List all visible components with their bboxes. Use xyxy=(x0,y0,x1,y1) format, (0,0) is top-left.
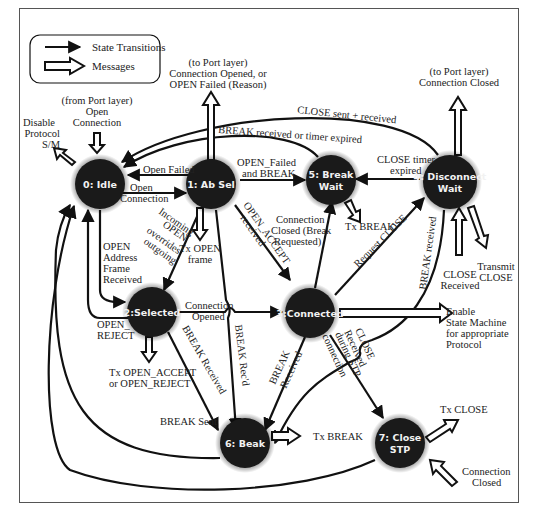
state-5-break-wait[interactable]: 5: Break Wait xyxy=(301,150,361,210)
label-connection-closed-break-3: Requested) xyxy=(274,236,322,248)
msg-tx-close-icon xyxy=(426,420,458,442)
label-enable-sm: Enable xyxy=(446,306,475,317)
label-address-frame-3: Frame xyxy=(103,263,130,274)
label-enable-sm-4: Protocol xyxy=(446,339,482,350)
msg-to-port-opened-icon xyxy=(203,92,219,160)
msg-to-port-closed-icon xyxy=(450,97,466,155)
label-close-received-4: CLOSE xyxy=(443,269,476,280)
label-to-port-opened-3: OPEN Failed (Reason) xyxy=(170,79,267,91)
legend: State Transitions Messages xyxy=(30,35,166,83)
legend-transitions-label: State Transitions xyxy=(92,41,166,53)
label-connection-closed-7: Connection xyxy=(462,466,511,477)
label-tx-break-6: Tx BREAK xyxy=(313,431,363,442)
state-machine-diagram: State Transitions Messages xyxy=(0,0,538,513)
label-to-port-closed-2: Connection Closed xyxy=(419,77,500,88)
label-address-frame: OPEN xyxy=(103,241,131,252)
label-address-frame-4: Received xyxy=(103,274,143,285)
label-open-connection-2: Connection xyxy=(120,193,169,204)
label-tx-open-frame: Tx OPEN xyxy=(179,243,221,254)
state-label-line2: Wait xyxy=(319,181,344,192)
label-disable-protocol-2: Protocol xyxy=(24,128,60,139)
label-open-reject: OPEN_ xyxy=(97,319,130,330)
msg-connection-closed-7-icon xyxy=(430,460,457,486)
state-6-beak[interactable]: 6: Beak xyxy=(215,413,275,473)
label-open-connection: Open xyxy=(130,182,153,193)
state-label: 3:Connected xyxy=(276,308,343,319)
state-label: 4: Disconnect xyxy=(414,171,487,182)
state-node-circle[interactable] xyxy=(375,418,425,468)
label-to-port-opened-2: Connection Opened, or xyxy=(169,68,267,79)
state-0-idle[interactable]: 0: Idle xyxy=(70,154,130,214)
state-label: 7: Close xyxy=(379,432,422,443)
state-label: 6: Beak xyxy=(225,438,266,449)
state-node-circle[interactable] xyxy=(306,155,356,205)
state-label-line2: Wait xyxy=(438,183,463,194)
label-break-sent: BREAK Sent xyxy=(160,416,217,427)
label-from-port-3: Connection xyxy=(73,117,122,128)
label-disable-protocol-3: S/M xyxy=(42,139,61,150)
label-connection-closed-break: Connection xyxy=(276,214,325,225)
label-from-port-2: Open xyxy=(86,106,109,117)
label-tx-open-frame-2: frame xyxy=(188,254,213,265)
state-label: 1: Ab Sel xyxy=(187,179,235,190)
state-7-close-stp[interactable]: 7: Close STP xyxy=(370,413,430,473)
label-open-reject-2: REJECT xyxy=(97,330,135,341)
msg-from-port-open-icon xyxy=(90,133,104,153)
label-transmit-close: Transmit xyxy=(477,261,515,272)
label-close-timer: CLOSE timer xyxy=(377,154,436,165)
msg-transmit-close-icon xyxy=(468,206,488,248)
label-tx-break-5: Tx BREAK xyxy=(345,221,395,232)
label-tx-open-accept-2: or OPEN_REJECT xyxy=(109,378,191,389)
label-connection-opened: Connection xyxy=(185,300,234,311)
legend-messages-label: Messages xyxy=(92,60,135,72)
label-open-failed: Open Failed xyxy=(143,164,195,175)
label-tx-close: Tx CLOSE xyxy=(440,404,488,415)
state-label-line2: STP xyxy=(390,444,410,455)
label-enable-sm-3: for appropriate xyxy=(446,328,509,339)
msg-close-received-4-icon xyxy=(452,208,466,255)
label-open-failed-break-2: and BREAK xyxy=(242,168,296,179)
state-label: 0: Idle xyxy=(83,179,117,190)
label-tx-open-accept: Tx OPEN_ACCEPT xyxy=(109,367,197,378)
state-label: 2:Selected xyxy=(124,307,181,318)
label-enable-sm-2: State Machine xyxy=(446,317,507,328)
msg-enable-sm-icon xyxy=(340,304,452,322)
label-close-sent-received: CLOSE sent + received xyxy=(297,104,398,125)
label-connection-opened-2: Opened xyxy=(192,311,225,322)
label-break-received-4: BREAK received xyxy=(417,215,438,290)
label-address-frame-2: Address xyxy=(103,252,137,263)
label-break-recd: BREAK Rec'd xyxy=(233,324,252,387)
label-connection-closed-7-2: Closed xyxy=(472,477,502,488)
label-close-received-4-2: Received xyxy=(440,280,480,291)
label-close-timer-2: expired xyxy=(390,165,422,176)
msg-disable-protocol-icon xyxy=(54,148,75,165)
state-label: 5: Break xyxy=(309,169,354,180)
state-1-ab-sel[interactable]: 1: Ab Sel xyxy=(181,154,241,214)
label-disable-protocol: Disable xyxy=(23,117,55,128)
label-open-failed-break: OPEN_Failed xyxy=(237,157,297,168)
label-transmit-close-2: CLOSE xyxy=(479,272,512,283)
